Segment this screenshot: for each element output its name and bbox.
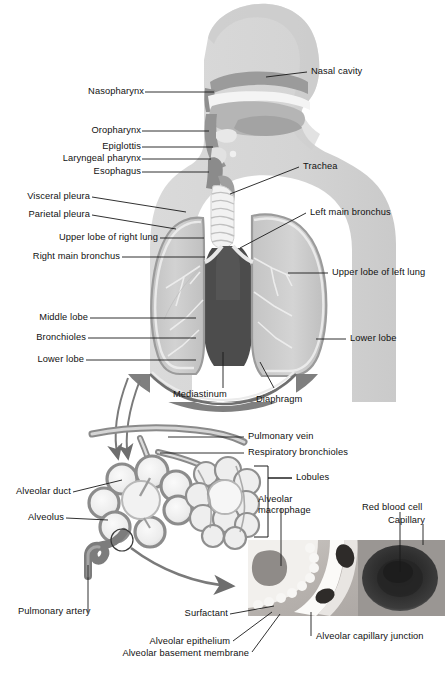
label-alveolar-capillary-junction: Alveolar capillary junction (316, 631, 424, 642)
label-alveolar-epithelium: Alveolar epithelium (0, 636, 230, 647)
magnify-arrow-lung-to-alveoli (116, 378, 140, 458)
respiratory-system-figure: Nasopharynx Oropharynx Epiglottis Laryng… (0, 0, 445, 680)
alveolar-macrophage-shape (252, 550, 287, 586)
label-diaphragm: Diaphragm (256, 394, 302, 405)
label-lower-lobe-left: Lower lobe (350, 333, 396, 344)
label-alveolus: Alveolus (0, 512, 64, 523)
label-trachea: Trachea (303, 161, 337, 172)
lobule-cluster (186, 457, 260, 549)
label-capillary: Capillary (388, 515, 425, 526)
capillary-photo-inset (248, 540, 445, 616)
label-laryngeal-pharynx: Laryngeal pharynx (0, 153, 141, 164)
label-alveolar-basement-membrane: Alveolar basement membrane (0, 648, 249, 659)
label-pulmonary-vein: Pulmonary vein (248, 431, 313, 442)
label-oropharynx: Oropharynx (0, 125, 141, 136)
magnify-arrow-to-inset (131, 548, 232, 586)
label-lower-lobe-right: Lower lobe (0, 354, 84, 365)
label-lobules: Lobules (296, 472, 329, 483)
alveolar-cluster (88, 428, 260, 586)
label-esophagus: Esophagus (0, 166, 141, 177)
alveolus-rosette (89, 456, 192, 547)
label-red-blood-cell: Red blood cell (362, 502, 422, 513)
label-epiglottis: Epiglottis (0, 141, 141, 152)
label-right-main-bronchus: Right main bronchus (0, 251, 120, 262)
label-left-main-bronchus: Left main bronchus (310, 207, 391, 218)
label-alveolar-duct: Alveolar duct (0, 486, 71, 497)
trachea-shape (211, 186, 234, 249)
label-bronchioles: Bronchioles (0, 332, 86, 343)
label-respiratory-bronchioles: Respiratory bronchioles (248, 447, 348, 458)
label-visceral-pleura: Visceral pleura (0, 191, 90, 202)
label-mediastinum: Mediastinum (173, 389, 227, 400)
label-alveolar-macrophage-line2: macrophage (258, 505, 311, 516)
label-upper-lobe-of-right-lung: Upper lobe of right lung (0, 232, 158, 243)
label-alveolar-macrophage-line1: Alveolar (258, 494, 292, 505)
label-nasal-cavity: Nasal cavity (311, 66, 362, 77)
label-nasopharynx: Nasopharynx (0, 86, 144, 97)
label-surfactant: Surfactant (0, 608, 228, 619)
label-parietal-pleura: Parietal pleura (0, 209, 90, 220)
label-upper-lobe-of-left-lung: Upper lobe of left lung (332, 267, 425, 278)
label-middle-lobe: Middle lobe (0, 312, 88, 323)
